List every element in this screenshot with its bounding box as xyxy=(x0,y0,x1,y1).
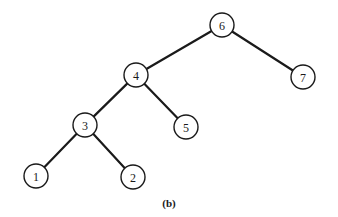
tree-diagram: 6473512 (b) xyxy=(0,0,338,217)
edge-3-2 xyxy=(93,134,125,168)
edge-6-4 xyxy=(146,31,211,69)
edges-group xyxy=(44,31,293,168)
nodes-group: 6473512 xyxy=(24,13,315,189)
node-label: 7 xyxy=(300,71,306,85)
tree-node-5: 5 xyxy=(174,115,198,139)
edge-3-1 xyxy=(44,134,76,168)
figure-caption: (b) xyxy=(0,197,338,209)
tree-graphic: 6473512 xyxy=(0,0,338,217)
edge-6-7 xyxy=(232,31,293,70)
node-label: 1 xyxy=(33,170,39,184)
tree-node-6: 6 xyxy=(210,13,234,37)
edge-4-5 xyxy=(144,84,177,119)
node-label: 2 xyxy=(130,171,136,185)
edge-4-3 xyxy=(94,83,128,116)
node-label: 4 xyxy=(133,69,139,83)
node-label: 6 xyxy=(219,19,225,33)
tree-node-4: 4 xyxy=(124,63,148,87)
tree-node-2: 2 xyxy=(121,165,145,189)
node-label: 3 xyxy=(82,119,88,133)
tree-node-1: 1 xyxy=(24,164,48,188)
node-label: 5 xyxy=(183,121,189,135)
tree-node-7: 7 xyxy=(291,65,315,89)
tree-node-3: 3 xyxy=(73,113,97,137)
